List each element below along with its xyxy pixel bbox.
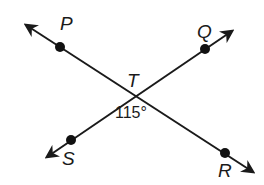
point-S-dot xyxy=(66,135,76,145)
geometry-figure: P Q S R T 115° xyxy=(0,0,264,185)
point-P-label: P xyxy=(60,13,73,34)
diagram-canvas: P Q S R T 115° xyxy=(0,0,264,185)
point-R-dot xyxy=(220,148,230,158)
point-Q-label: Q xyxy=(197,21,212,42)
intersection-T-label: T xyxy=(127,70,140,91)
point-P-dot xyxy=(55,42,65,52)
point-Q-dot xyxy=(200,44,210,54)
point-S-label: S xyxy=(62,148,75,169)
point-R-label: R xyxy=(218,160,232,181)
angle-measure-label: 115° xyxy=(115,104,147,121)
